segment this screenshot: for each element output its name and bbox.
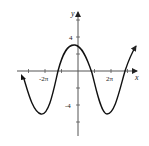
x-axis-label: x [134, 73, 139, 82]
function-graph: -2π 2π x 4 -4 y [0, 0, 149, 146]
x-tick-label-2pi: 2π [106, 75, 114, 83]
curve-left-arrow-icon [21, 74, 26, 80]
y-tick-label-4: 4 [69, 34, 73, 42]
y-tick-label-neg-4: -4 [65, 102, 71, 110]
y-axis-label: y [70, 9, 75, 18]
x-tick-label-neg-2pi: -2π [39, 75, 49, 83]
y-axis: 4 -4 y [65, 9, 80, 136]
